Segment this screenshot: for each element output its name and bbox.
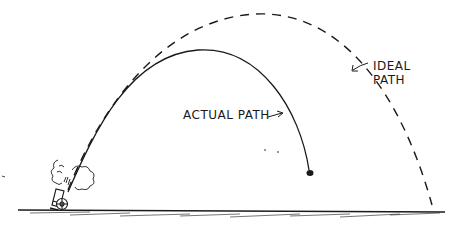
cannon	[50, 189, 68, 210]
smoke-puffs	[51, 160, 94, 190]
actual-path-label: ACTUAL PATH	[183, 108, 270, 122]
actual-path-arrow-icon	[268, 111, 283, 117]
cannonball	[307, 170, 314, 176]
ground	[18, 210, 445, 217]
ideal-path-label: IDEAL PATH	[373, 59, 411, 87]
stray-mark	[2, 176, 5, 177]
dust-dots	[264, 149, 279, 153]
ideal-path-label-line1: IDEAL	[373, 59, 411, 73]
ideal-path-label-line2: PATH	[373, 73, 411, 87]
ideal-path-arrow-icon	[352, 63, 368, 71]
